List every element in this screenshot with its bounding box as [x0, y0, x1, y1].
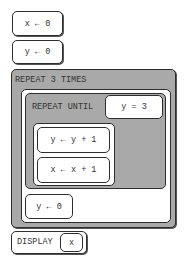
repeat-until-label: REPEAT UNTIL: [32, 103, 93, 112]
reset-y-block: y ← 0: [25, 194, 73, 219]
increment-y-block: y ← y + 1: [37, 127, 110, 153]
increment-x-block: x ← x + 1: [37, 157, 110, 183]
display-arg: x: [60, 233, 83, 252]
assign-x-zero-block: x ← 0: [12, 11, 63, 36]
assign-y-zero-block: y ← 0: [12, 40, 63, 64]
display-label: DISPLAY: [17, 238, 53, 247]
condition-block: y = 3: [105, 95, 163, 119]
repeat-times-label: REPEAT 3 TIMES: [15, 76, 86, 85]
